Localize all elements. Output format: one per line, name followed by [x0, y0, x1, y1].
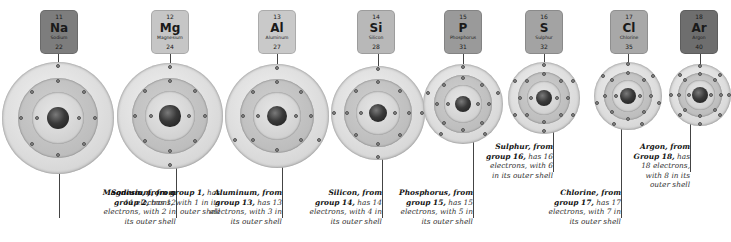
electron: [727, 93, 731, 97]
electron: [566, 96, 570, 100]
element-box-argon: 18 Ar Argon 40: [680, 10, 718, 54]
electron: [612, 122, 616, 126]
element-name: Sulphur: [535, 36, 552, 41]
electron: [193, 89, 197, 93]
atomic-number: 11: [55, 14, 63, 20]
caption-phosphorus: Phosphorus, from group 15, has 15 electr…: [393, 188, 473, 226]
caption-leader-line: [382, 154, 383, 218]
electron: [483, 132, 487, 136]
electron: [669, 93, 673, 97]
element-name: Argon: [692, 36, 705, 41]
electron: [698, 64, 702, 68]
electron: [30, 142, 34, 146]
atomic-number: 16: [540, 14, 548, 20]
electron: [398, 89, 402, 93]
electron: [719, 93, 723, 97]
electron: [718, 113, 722, 117]
electron: [718, 73, 722, 77]
electron: [133, 114, 137, 118]
electron: [651, 74, 655, 78]
nucleus: [159, 105, 180, 126]
electron: [513, 113, 517, 117]
electron: [529, 96, 533, 100]
electron: [698, 122, 702, 126]
atom-chlorine: [594, 62, 662, 130]
atomic-mass: 27: [273, 44, 281, 50]
electron: [461, 65, 465, 69]
element-box-silicon: 14 Si Silicon 28: [357, 10, 395, 54]
element-symbol: Na: [50, 22, 68, 34]
element-box-sulphur: 16 S Sulphur 32: [525, 10, 563, 54]
atomic-mass: 24: [166, 44, 174, 50]
electron: [193, 139, 197, 143]
caption-magnesium: Magnesium, from group 2, has 12 electron…: [98, 188, 176, 226]
electron: [640, 122, 644, 126]
electron: [439, 132, 443, 136]
atomic-number: 17: [625, 14, 633, 20]
electron: [359, 111, 363, 115]
caption-sulphur: Sulphur, from group 16, has 16 electrons…: [483, 142, 553, 180]
element-name: Magnesium: [157, 36, 183, 41]
caption-leader-line: [621, 125, 622, 218]
atom-aluminum: [225, 64, 329, 168]
element-name: Phosphorus: [450, 36, 476, 41]
electron: [601, 74, 605, 78]
electron: [256, 114, 260, 118]
nucleus: [536, 90, 552, 106]
electron: [82, 90, 86, 94]
caption-leader-line: [473, 137, 474, 218]
electron: [542, 129, 546, 133]
electron: [687, 93, 691, 97]
element-box-magnesium: 12 Mg Magnesium 24: [151, 10, 189, 54]
electron: [542, 63, 546, 67]
electron: [233, 138, 237, 142]
caption-argon: Argon, from Group 18, has 18 electrons, …: [632, 142, 690, 190]
electron: [571, 79, 575, 83]
element-box-sodium: 11 Na Sodium 22: [40, 10, 78, 54]
electron: [442, 121, 446, 125]
electron: [354, 89, 358, 93]
atom-silicon: [331, 66, 425, 160]
electron: [376, 155, 380, 159]
atom-sodium: [2, 62, 114, 174]
electron: [56, 64, 60, 68]
caption-leader-line: [690, 120, 691, 172]
atomic-mass: 35: [625, 44, 633, 50]
element-symbol: Cl: [623, 22, 636, 34]
electron: [610, 110, 614, 114]
electron: [678, 113, 682, 117]
element-box-aluminum: 13 Al Aluminum 27: [258, 10, 296, 54]
atom-magnesium: [117, 63, 223, 169]
electron: [398, 133, 402, 137]
element-symbol: Si: [370, 22, 383, 34]
element-symbol: S: [540, 22, 549, 34]
electron: [149, 114, 153, 118]
electron: [275, 80, 279, 84]
electron: [168, 163, 172, 167]
atom-phosphorus: [423, 64, 503, 144]
electron: [476, 102, 480, 106]
electron: [56, 79, 60, 83]
electron: [275, 66, 279, 70]
electron: [513, 79, 517, 83]
caption-silicon: Silicon, from group 14, has 14 electrons…: [304, 188, 382, 226]
electron: [480, 83, 484, 87]
caption-aluminum: Aluminum, from group 13, has 13 electron…: [204, 188, 282, 226]
electron: [559, 113, 563, 117]
electron: [376, 67, 380, 71]
element-box-phosphorus: 15 P Phosphorus 31: [444, 10, 482, 54]
atom-argon: [669, 64, 731, 126]
electron: [354, 133, 358, 137]
nucleus: [620, 88, 636, 104]
element-symbol: Mg: [160, 22, 181, 34]
electron: [559, 79, 563, 83]
electron: [19, 116, 23, 120]
atomic-number: 13: [273, 14, 281, 20]
electron: [626, 117, 630, 121]
nucleus: [692, 87, 708, 103]
electron: [435, 102, 439, 106]
electron: [77, 116, 81, 120]
electron: [461, 76, 465, 80]
electron: [168, 79, 172, 83]
atomic-number: 18: [695, 14, 703, 20]
